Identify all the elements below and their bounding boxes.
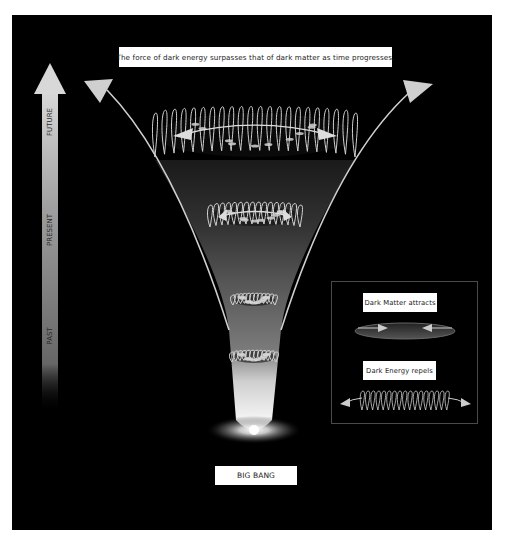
big-bang-core [249,425,259,435]
timeline-label-past: PAST [46,306,54,366]
timeline-label-future: FUTURE [46,92,54,152]
timeline-label-present: PRESENT [46,200,54,260]
future-expansion-ring [152,106,357,157]
diagram-artwork [0,0,506,543]
legend-dark-energy-label: Dark Energy repels [363,361,436,380]
future-ring-galaxy [251,145,259,148]
big-bang-label: BIG BANG [215,466,297,485]
timeline-arrow-head [34,63,66,94]
expansion-arrowhead-right [403,80,433,103]
diagram-title: The force of dark energy surpasses that … [119,47,392,67]
legend-dark-matter-label: Dark Matter attracts [363,293,437,312]
